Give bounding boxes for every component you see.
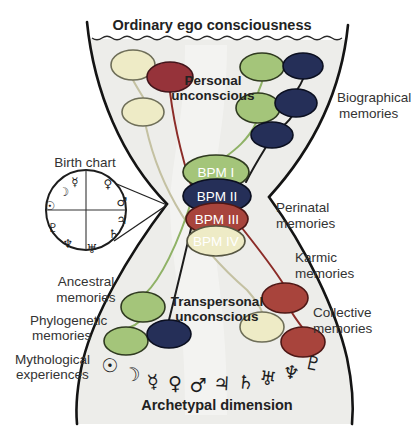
chart-pluto-glyph: ♇ [48, 221, 59, 235]
biographical-memories-label-line1: Biographical [337, 90, 411, 105]
phylogenetic-memories-label-line1: Phylogenetic [30, 313, 108, 328]
ordinary-ego-consciousness-label: Ordinary ego consciousness [112, 17, 311, 33]
mythological-experiences-label-line2: experiences [16, 367, 89, 382]
chart-mars-glyph: ♂ [117, 195, 128, 209]
karmic-memories-label-line2: memories [295, 266, 355, 281]
bpm1-label: BPM I [198, 165, 235, 180]
collective-memories-label-line2: memories [313, 321, 373, 336]
biographical-oval-navy-2 [275, 89, 317, 117]
saturn-glyph: ♄ [236, 370, 255, 394]
jupiter-glyph: ♃ [213, 372, 231, 395]
bpm-stack: BPM I BPM II BPM III BPM IV [183, 155, 251, 256]
biographical-oval-navy-3 [251, 122, 293, 148]
biographical-oval-green-1 [240, 53, 284, 81]
personal-unconscious-label-line1: Personal [184, 73, 241, 88]
transpersonal-oval-green-2 [104, 327, 148, 355]
bpm4-label: BPM IV [193, 234, 239, 249]
archetypal-dimension-label: Archetypal dimension [141, 397, 292, 413]
diagram-svg: BPM I BPM II BPM III BPM IV ☿ ♀ ☽ ☉ ♂ ♃ … [0, 0, 420, 428]
birth-chart-label: Birth chart [54, 155, 116, 170]
biographical-memories-label-line2: memories [339, 106, 399, 121]
perinatal-memories-label-line2: memories [276, 216, 336, 231]
chart-mercury-glyph: ☿ [71, 175, 78, 189]
venus-glyph: ♀ [167, 372, 182, 395]
consciousness-hourglass-diagram: BPM I BPM II BPM III BPM IV ☿ ♀ ☽ ☉ ♂ ♃ … [0, 0, 420, 428]
perinatal-memories-label-line1: Perinatal [276, 200, 329, 215]
phylogenetic-memories-label-line2: memories [32, 328, 92, 343]
chart-neptune-glyph: ♆ [63, 237, 74, 251]
mythological-experiences-label-line1: Mythological [15, 352, 90, 367]
transpersonal-unconscious-label-line2: unconscious [175, 309, 258, 324]
karmic-memories-label-line1: Karmic [295, 250, 337, 265]
biographical-oval-navy-1 [283, 53, 323, 79]
chart-saturn-glyph: ♄ [109, 227, 120, 241]
mars-glyph: ♂ [189, 374, 206, 396]
personal-unconscious-label-line2: unconscious [171, 88, 254, 103]
bpm2-label: BPM II [197, 189, 238, 204]
chart-venus-glyph: ♀ [104, 177, 113, 191]
ancestral-memories-label-line2: memories [56, 290, 116, 305]
chart-sun-glyph: ☉ [45, 199, 56, 213]
ancestral-memories-label-line1: Ancestral [58, 274, 114, 289]
chart-moon-glyph: ☽ [59, 185, 70, 199]
transpersonal-unconscious-label-line1: Transpersonal [171, 294, 263, 309]
transpersonal-oval-navy [147, 320, 191, 348]
uranus-glyph: ♅ [258, 366, 278, 390]
bpm3-label: BPM III [195, 212, 239, 227]
collective-memories-label-line1: Collective [313, 305, 372, 320]
biographical-oval-pale-2 [122, 98, 164, 126]
transpersonal-oval-green-1 [121, 292, 165, 322]
chart-jupiter-glyph: ♃ [117, 213, 128, 227]
transpersonal-oval-red-1 [262, 283, 308, 313]
chart-uranus-glyph: ♅ [87, 242, 98, 256]
